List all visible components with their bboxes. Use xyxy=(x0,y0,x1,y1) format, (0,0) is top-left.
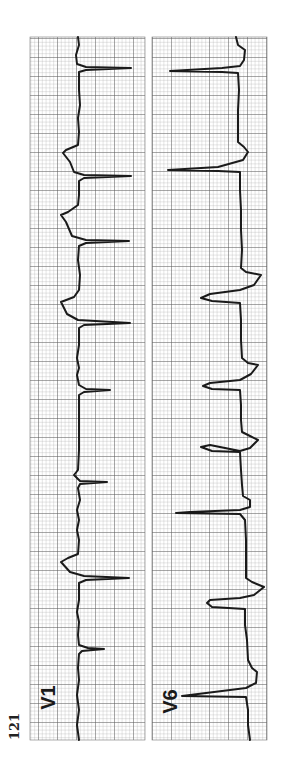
lead-label-v1: V1 xyxy=(36,686,60,709)
lead-v1-panel xyxy=(30,37,145,740)
figure-number: 121 xyxy=(4,708,26,744)
figure-number-text: 121 xyxy=(8,712,23,739)
lead-label-v1-text: V1 xyxy=(37,685,60,709)
ecg-figure xyxy=(0,0,285,780)
lead-label-v6-text: V6 xyxy=(159,689,182,713)
lead-label-v6: V6 xyxy=(158,690,182,713)
lead-v6-panel xyxy=(152,37,267,740)
